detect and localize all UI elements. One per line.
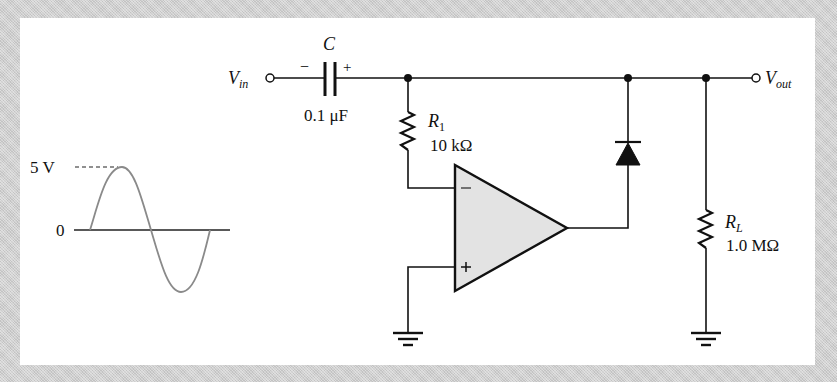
capacitor-value: 0.1 μF bbox=[304, 106, 348, 125]
rl-value: 1.0 MΩ bbox=[726, 236, 779, 255]
r1-value: 10 kΩ bbox=[430, 136, 472, 155]
capacitor-plus: + bbox=[343, 59, 351, 75]
vout-terminal bbox=[752, 74, 760, 82]
wire-output-to-diode bbox=[567, 160, 628, 228]
rl-name: RL bbox=[724, 212, 743, 235]
vin-label: Vin bbox=[228, 68, 248, 91]
resistor-rl bbox=[699, 210, 712, 248]
opamp-triangle bbox=[455, 165, 567, 291]
vin-terminal bbox=[266, 74, 274, 82]
circuit-schematic: 5 V 0 Vin Vout C − + 0.1 μF R1 10 kΩ RL … bbox=[0, 0, 837, 382]
ground-symbol-load bbox=[691, 333, 721, 345]
vout-label: Vout bbox=[765, 68, 792, 91]
wire-r1-to-inverting-input bbox=[408, 150, 455, 188]
r1-name: R1 bbox=[427, 111, 445, 134]
input-waveform bbox=[74, 167, 230, 292]
diode bbox=[615, 142, 641, 165]
capacitor-minus: − bbox=[300, 58, 309, 75]
capacitor-c bbox=[325, 62, 335, 96]
capacitor-name: C bbox=[323, 34, 336, 54]
waveform-zero-label: 0 bbox=[56, 221, 65, 240]
wire-noninverting-to-ground bbox=[408, 267, 455, 333]
resistor-r1 bbox=[401, 112, 414, 150]
waveform-peak-label: 5 V bbox=[30, 158, 55, 177]
ground-symbol-opamp bbox=[393, 333, 423, 345]
